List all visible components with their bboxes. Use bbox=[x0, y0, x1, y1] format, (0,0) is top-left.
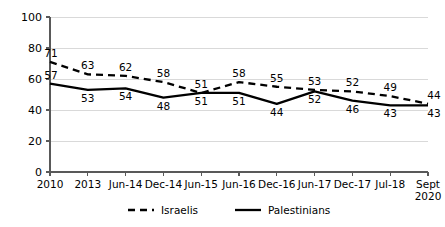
line-chart: 020406080100 20102013Jun-14Dec-14Jun-15J… bbox=[0, 0, 445, 227]
y-tick-label-100: 100 bbox=[21, 11, 42, 24]
data-label-israelis-3: 58 bbox=[157, 67, 170, 79]
data-label-palestinians-8: 46 bbox=[346, 103, 360, 115]
data-label-palestinians-9: 43 bbox=[384, 107, 397, 119]
x-tick-label-8: Dec-17 bbox=[334, 178, 371, 190]
x-axis: 20102013Jun-14Dec-14Jun-15Jun-16Dec-16Ju… bbox=[37, 172, 442, 202]
y-tick-label-0: 0 bbox=[35, 166, 42, 179]
x-tick-label-3: Dec-14 bbox=[145, 178, 183, 190]
x-tick-label-0: 2010 bbox=[37, 178, 64, 190]
y-tick-label-20: 20 bbox=[28, 135, 42, 148]
data-label-israelis-8: 52 bbox=[346, 76, 359, 88]
y-tick-label-60: 60 bbox=[28, 73, 42, 86]
data-label-israelis-4: 51 bbox=[195, 78, 208, 90]
data-label-israelis-1: 63 bbox=[81, 59, 94, 71]
data-label-israelis-9: 49 bbox=[384, 81, 397, 93]
x-tick-label-4: Jun-15 bbox=[183, 178, 218, 190]
y-axis: 020406080100 bbox=[21, 11, 50, 179]
chart-canvas: 020406080100 20102013Jun-14Dec-14Jun-15J… bbox=[0, 0, 445, 227]
x-tick-label-5: Jun-16 bbox=[221, 178, 256, 190]
x-tick-label-9: Jul-18 bbox=[374, 178, 405, 190]
legend-label-palestinians: Palestinians bbox=[268, 204, 330, 216]
data-label-israelis-7: 53 bbox=[308, 75, 321, 87]
x-tick-label-6: Dec-16 bbox=[258, 178, 296, 190]
data-label-palestinians-3: 48 bbox=[157, 100, 170, 112]
data-label-palestinians-4: 51 bbox=[195, 95, 208, 107]
data-label-israelis-10: 44 bbox=[427, 89, 441, 101]
x-tick-label-7: Jun-17 bbox=[297, 178, 332, 190]
legend-label-israelis: Israelis bbox=[161, 204, 198, 216]
data-label-israelis-6: 55 bbox=[270, 72, 283, 84]
y-tick-label-40: 40 bbox=[28, 104, 42, 117]
data-label-palestinians-2: 54 bbox=[119, 90, 133, 102]
data-label-palestinians-10: 43 bbox=[427, 107, 440, 119]
chart-legend: IsraelisPalestinians bbox=[128, 204, 330, 216]
data-label-palestinians-6: 44 bbox=[270, 106, 284, 118]
y-tick-label-80: 80 bbox=[28, 42, 42, 55]
data-label-israelis-2: 62 bbox=[119, 61, 132, 73]
data-label-palestinians-5: 51 bbox=[232, 95, 245, 107]
data-label-israelis-0: 71 bbox=[44, 47, 57, 59]
x-tick-label-10: Sept bbox=[416, 178, 440, 190]
x-tick-label-1: 2013 bbox=[74, 178, 101, 190]
data-label-palestinians-1: 53 bbox=[81, 92, 94, 104]
x-tick-label-2: Jun-14 bbox=[108, 178, 143, 190]
x-tick-label-10: 2020 bbox=[415, 190, 442, 202]
data-label-israelis-5: 58 bbox=[232, 67, 245, 79]
data-label-palestinians-0: 57 bbox=[44, 69, 57, 81]
data-label-palestinians-7: 52 bbox=[308, 93, 321, 105]
